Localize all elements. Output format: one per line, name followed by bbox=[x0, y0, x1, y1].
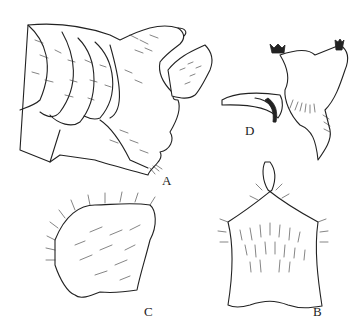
panel-label-b: B bbox=[313, 305, 322, 318]
panel-c-drawing bbox=[46, 192, 155, 297]
figure-plate: A B C D bbox=[0, 0, 363, 334]
panel-label-c: C bbox=[144, 305, 153, 318]
panel-label-a: A bbox=[162, 174, 171, 187]
illustration-svg bbox=[0, 0, 363, 334]
panel-a-drawing bbox=[20, 24, 212, 175]
panel-b-drawing bbox=[218, 162, 328, 308]
panel-label-d: D bbox=[245, 124, 254, 137]
panel-d-drawing bbox=[222, 39, 348, 160]
